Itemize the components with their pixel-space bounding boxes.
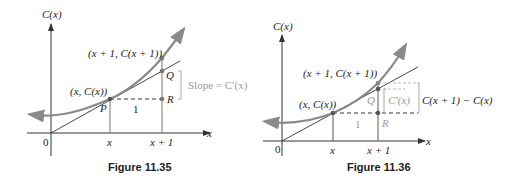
point-left <box>331 111 336 116</box>
cost-curve <box>33 30 183 116</box>
inner-bracket <box>384 89 386 113</box>
slope-annotation: Slope = C′(x) <box>188 80 247 91</box>
point-R <box>376 111 381 116</box>
right-point-label: (x + 1, C(x + 1)) <box>88 48 162 59</box>
point-P <box>108 97 113 102</box>
right-point-label: (x + 1, C(x + 1)) <box>303 68 377 79</box>
point-R-label: R <box>382 118 389 129</box>
y-axis-label: C(x) <box>42 9 62 20</box>
slope-bracket <box>178 71 181 99</box>
inner-annotation: C′(x) <box>388 95 410 106</box>
left-point-label: (x, C(x)) <box>299 99 336 110</box>
point-Q-label: Q <box>367 95 375 106</box>
figure-caption: Figure 11.36 <box>347 162 411 173</box>
outer-annotation: C(x + 1) − C(x) <box>422 95 492 106</box>
figure-11-36-graphic <box>255 0 511 184</box>
point-Q <box>160 69 165 74</box>
outer-bracket <box>417 83 419 113</box>
x-axis-label: x <box>426 136 431 147</box>
cost-curve-left-arrow <box>31 115 40 116</box>
point-R <box>160 97 165 102</box>
figure-11-35-graphic <box>0 0 255 184</box>
point-Q <box>376 87 381 92</box>
origin-label: 0 <box>275 144 281 155</box>
point-Q-label: Q <box>166 70 174 81</box>
figure-caption: Figure 11.35 <box>108 162 172 173</box>
figure-11-36: C(x) x 0 x x + 1 (x, C(x)) (x + 1, C(x +… <box>255 0 511 184</box>
x-tick-label-x-plus-1: x + 1 <box>150 137 173 148</box>
run-label: 1 <box>355 119 361 130</box>
figure-11-35: C(x) x 0 x x + 1 (x, C(x)) (x + 1, C(x +… <box>0 0 255 184</box>
x-tick-label-x: x <box>330 145 335 156</box>
y-axis-label: C(x) <box>273 21 293 32</box>
point-P-label: P <box>100 103 107 114</box>
left-point-label: (x, C(x)) <box>70 86 107 97</box>
cost-curve-left-arrow <box>266 122 275 123</box>
x-axis-label: x <box>207 128 212 139</box>
point-x-plus-1 <box>376 81 381 86</box>
x-tick-label-x: x <box>107 137 112 148</box>
run-label: 1 <box>133 104 139 115</box>
x-tick-label-x-plus-1: x + 1 <box>367 145 390 156</box>
origin-label: 0 <box>43 137 49 148</box>
point-R-label: R <box>167 94 174 105</box>
